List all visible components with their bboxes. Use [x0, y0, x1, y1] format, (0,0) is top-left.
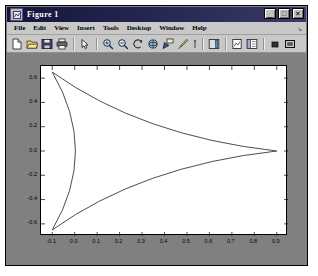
menu-edit[interactable]: Edit — [29, 24, 50, 32]
y-tick-label: 0.0 — [20, 147, 37, 153]
rotate-3d-icon[interactable] — [146, 37, 160, 51]
y-tick-label: -0.4 — [20, 195, 37, 201]
y-tick-label: -0.6 — [20, 219, 37, 225]
menu-view[interactable]: View — [50, 24, 73, 32]
x-tick-label: 0.8 — [246, 238, 260, 244]
axes-container: -0.10.00.10.20.30.40.50.60.70.80.9 0.60.… — [40, 65, 287, 235]
save-figure-icon[interactable] — [40, 37, 54, 51]
menu-window[interactable]: Window — [155, 24, 188, 32]
x-tick-label: 0.6 — [201, 238, 215, 244]
menu-insert[interactable]: Insert — [73, 24, 99, 32]
y-tick-label: 0.4 — [20, 98, 37, 104]
y-tick-label: 0.6 — [20, 74, 37, 80]
plot-axes[interactable] — [40, 65, 287, 235]
figure-canvas: -0.10.00.10.20.30.40.50.60.70.80.9 0.60.… — [7, 53, 306, 265]
deltoid-curve — [41, 66, 288, 236]
figure-icon — [10, 8, 23, 21]
open-file-icon[interactable] — [25, 37, 39, 51]
show-plot-tools-small-icon[interactable] — [268, 37, 282, 51]
toolbar-separator — [202, 38, 204, 50]
hide-plot-tools-icon[interactable] — [245, 37, 259, 51]
x-tick-label: 0.3 — [134, 238, 148, 244]
menu-help[interactable]: Help — [188, 24, 210, 32]
x-tick-label: 0.7 — [224, 238, 238, 244]
x-tick-label: 0.0 — [67, 238, 81, 244]
x-tick-label: 0.1 — [89, 238, 103, 244]
figure-window: Figure 1 _ □ ✕ File Edit View Insert Too… — [5, 5, 308, 266]
edit-plot-arrow-icon[interactable] — [78, 37, 92, 51]
y-tick-label: -0.2 — [20, 171, 37, 177]
title-bar[interactable]: Figure 1 _ □ ✕ — [7, 7, 306, 22]
data-cursor-icon[interactable] — [161, 37, 175, 51]
menu-desktop[interactable]: Desktop — [123, 24, 156, 32]
brush-icon[interactable] — [176, 37, 190, 51]
insert-colorbar-icon[interactable] — [207, 37, 221, 51]
zoom-out-icon[interactable] — [116, 37, 130, 51]
minimize-button[interactable]: _ — [264, 8, 276, 19]
window-title: Figure 1 — [27, 10, 59, 19]
x-tick-label: 0.4 — [157, 238, 171, 244]
x-tick-label: 0.9 — [269, 238, 283, 244]
x-tick-label: 0.2 — [112, 238, 126, 244]
toolbar-separator — [73, 38, 75, 50]
menu-tools[interactable]: Tools — [99, 24, 123, 32]
x-tick-label: 0.5 — [179, 238, 193, 244]
toolbar-separator — [225, 38, 227, 50]
maximize-button[interactable]: □ — [278, 8, 290, 19]
x-tick-label: -0.1 — [44, 238, 58, 244]
pan-icon[interactable] — [131, 37, 145, 51]
menu-file[interactable]: File — [10, 24, 29, 32]
toolbar-separator — [96, 38, 98, 50]
toolbar-separator — [263, 38, 265, 50]
menu-overflow-icon[interactable]: ↘ — [297, 25, 302, 32]
y-tick-label: 0.2 — [20, 122, 37, 128]
print-figure-icon[interactable] — [55, 37, 69, 51]
insert-legend-icon[interactable] — [230, 37, 244, 51]
zoom-in-icon[interactable] — [101, 37, 115, 51]
window-controls: _ □ ✕ — [264, 8, 304, 19]
tool-bar — [7, 35, 306, 53]
new-figure-icon[interactable] — [10, 37, 24, 51]
show-plot-tools-icon[interactable] — [283, 37, 297, 51]
close-button[interactable]: ✕ — [292, 8, 304, 19]
menu-bar: File Edit View Insert Tools Desktop Wind… — [7, 22, 306, 35]
link-plot-icon[interactable] — [191, 37, 198, 51]
